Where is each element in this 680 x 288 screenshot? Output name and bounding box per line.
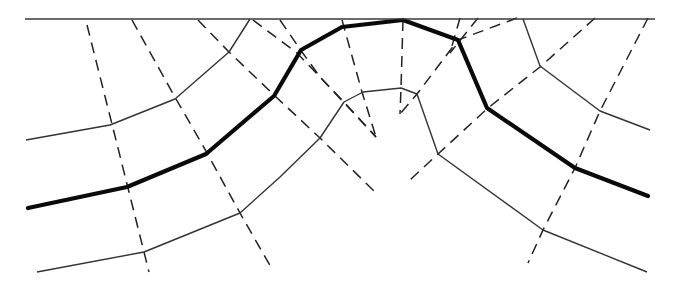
ray-12	[528, 18, 648, 263]
lower-curve	[37, 88, 647, 272]
wavefront-ray-diagram	[0, 0, 680, 288]
dashed-rays	[87, 18, 648, 272]
ray-10	[400, 18, 517, 114]
ray-2	[132, 20, 272, 269]
ray-9	[450, 18, 478, 53]
ray-11	[410, 18, 595, 180]
thin-curves	[26, 19, 650, 272]
ray-7	[400, 20, 403, 114]
upper-left-curve	[26, 19, 250, 140]
bold-wavefront-curve	[28, 20, 648, 208]
ray-5	[280, 20, 376, 137]
bold-wavefront	[28, 20, 648, 208]
upper-right-curve	[523, 19, 650, 130]
ray-1	[87, 25, 149, 272]
